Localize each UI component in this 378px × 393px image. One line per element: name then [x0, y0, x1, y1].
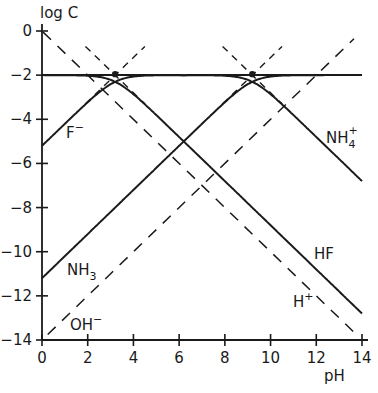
y-tick-label: −6 [10, 154, 32, 172]
y-tick-label: −12 [0, 287, 32, 305]
x-tick-label: 4 [129, 349, 139, 367]
label-hf: HF [314, 245, 334, 263]
y-tick-label: −10 [0, 243, 32, 261]
x-tick-label: 12 [307, 349, 326, 367]
label-f-minus: F− [66, 121, 84, 142]
y-tick-label: −14 [0, 331, 32, 349]
y-tick-label: 0 [22, 22, 32, 40]
y-axis-title: log C [40, 4, 78, 22]
x-axis-title: pH [324, 367, 345, 385]
label-nh3: NH3 [67, 261, 97, 283]
label-oh-minus: OH− [70, 313, 102, 334]
system-point-dot [112, 71, 118, 77]
system-point-dot [249, 71, 255, 77]
y-tick-label: −4 [10, 110, 32, 128]
label-nh4-plus: NH4+ [326, 124, 358, 151]
axis-ticks: 024681012140−2−4−6−8−10−12−14 [0, 22, 371, 367]
y-tick-label: −8 [10, 199, 32, 217]
curve-NH₄⁺ [42, 75, 362, 181]
x-tick-label: 0 [37, 349, 47, 367]
x-tick-label: 14 [352, 349, 371, 367]
label-h-plus: H+ [293, 290, 314, 311]
x-tick-label: 10 [261, 349, 280, 367]
log-concentration-ph-diagram: 024681012140−2−4−6−8−10−12−14 log C pH F… [0, 0, 378, 393]
x-tick-label: 6 [174, 349, 184, 367]
species-curves [42, 32, 362, 334]
x-tick-label: 2 [83, 349, 93, 367]
y-tick-label: −2 [10, 66, 32, 84]
x-tick-label: 8 [220, 349, 230, 367]
